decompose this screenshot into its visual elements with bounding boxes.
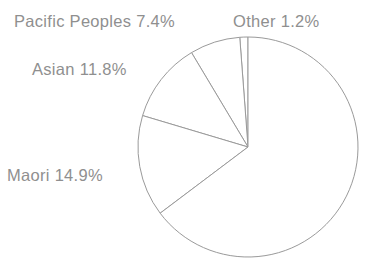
- slice-label-asian: Asian 11.8%: [32, 61, 127, 78]
- pie-chart-figure: Pacific Peoples 7.4% Other 1.2% Asian 11…: [0, 0, 371, 263]
- slice-label-maori: Maori 14.9%: [7, 167, 103, 184]
- slice-label-pacific-peoples: Pacific Peoples 7.4%: [14, 13, 175, 30]
- slice-label-other: Other 1.2%: [233, 13, 319, 30]
- pie-chart-svg: [0, 0, 371, 263]
